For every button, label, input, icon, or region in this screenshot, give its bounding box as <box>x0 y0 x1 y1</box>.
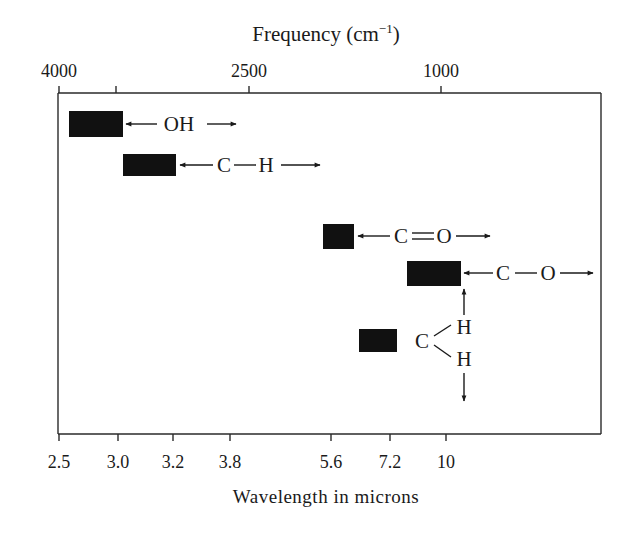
c-o-c-label: C <box>496 261 510 285</box>
bottom-tick-label: 3.2 <box>162 452 185 472</box>
wavelength-axis-title: Wavelength in microns <box>233 486 419 507</box>
c-double-o-band-bar <box>323 224 354 249</box>
oh-band-bar <box>69 111 123 137</box>
band-ch2: C H H <box>359 289 472 401</box>
band-oh: OH <box>69 111 236 137</box>
ch2-h-lower-label: H <box>456 347 471 371</box>
bottom-tick-label: 10 <box>437 452 455 472</box>
ir-correlation-chart: Frequency (cm−1) 4000 2500 1000 2.5 3.0 … <box>0 0 634 539</box>
band-c-double-o: C O <box>323 224 490 249</box>
ch-band-bar <box>123 154 176 176</box>
c-double-o-c-label: C <box>394 224 408 248</box>
band-ch: C H <box>123 153 320 177</box>
bottom-tick-label: 2.5 <box>48 452 71 472</box>
top-tick-label-4000: 4000 <box>41 61 77 81</box>
oh-label: OH <box>164 112 194 136</box>
ch-h-label: H <box>258 153 273 177</box>
band-c-o: C O <box>407 261 593 286</box>
top-tick-label-2500: 2500 <box>231 61 267 81</box>
top-tick-label-1000: 1000 <box>423 61 459 81</box>
frequency-axis-title: Frequency (cm−1) <box>252 21 399 46</box>
c-double-o-o-label: O <box>436 224 451 248</box>
bond-upper-line <box>434 325 451 336</box>
bottom-tick-label: 3.0 <box>107 452 130 472</box>
bottom-tick-label: 3.8 <box>219 452 242 472</box>
bottom-tick-label: 5.6 <box>320 452 343 472</box>
bond-lower-line <box>434 345 451 357</box>
bottom-tick-label: 7.2 <box>379 452 402 472</box>
ch2-h-upper-label: H <box>456 315 471 339</box>
plot-frame <box>58 93 601 434</box>
ch2-c-label: C <box>415 329 429 353</box>
bottom-ticks <box>59 434 446 441</box>
ch-c-label: C <box>217 153 231 177</box>
top-ticks <box>59 86 441 93</box>
ch2-band-bar <box>359 329 397 352</box>
c-o-band-bar <box>407 261 461 286</box>
c-o-o-label: O <box>540 261 555 285</box>
